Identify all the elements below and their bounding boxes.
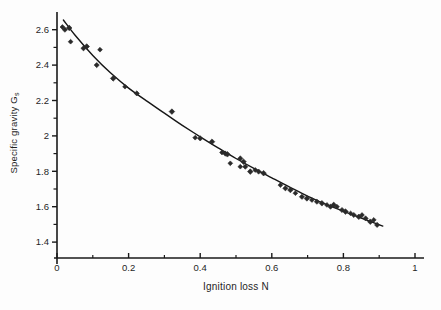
data-point <box>123 84 128 89</box>
y-axis: 1.41.61.822.22.42.6 <box>36 12 57 264</box>
x-tick-label: 0.4 <box>194 262 207 273</box>
data-point <box>248 169 254 175</box>
y-tick-label: 1.6 <box>36 201 49 212</box>
data-point <box>169 109 175 115</box>
x-axis: 00.20.40.60.81 <box>54 253 424 273</box>
y-axis-title: Specific gravity Gs <box>8 92 21 173</box>
y-axis-title-text: Specific gravity G <box>8 96 19 174</box>
x-tick-label: 0.2 <box>122 262 135 273</box>
data-point <box>238 164 243 169</box>
y-axis-title-subscript: s <box>13 92 20 96</box>
data-points <box>60 25 380 228</box>
fit-line <box>63 20 382 226</box>
scatter-plot-canvas: 00.20.40.60.811.41.61.822.22.42.6 <box>0 0 441 310</box>
data-point <box>193 135 198 140</box>
y-tick-label: 2.4 <box>36 59 49 70</box>
x-axis-title: Ignition loss N <box>118 281 354 292</box>
y-tick-label: 1.4 <box>36 236 49 247</box>
data-point <box>198 136 203 141</box>
data-point <box>94 63 99 68</box>
x-tick-label: 1 <box>412 262 417 273</box>
y-tick-label: 2.2 <box>36 95 49 106</box>
x-tick-label: 0.6 <box>265 262 278 273</box>
y-tick-label: 2 <box>44 130 49 141</box>
data-point <box>228 161 233 166</box>
y-tick-label: 1.8 <box>36 166 49 177</box>
data-point <box>68 39 73 44</box>
figure-scatter-specific-gravity: 00.20.40.60.811.41.61.822.22.42.6 Igniti… <box>0 0 441 310</box>
x-tick-label: 0.8 <box>337 262 350 273</box>
y-tick-label: 2.6 <box>36 24 49 35</box>
data-point <box>98 47 103 52</box>
